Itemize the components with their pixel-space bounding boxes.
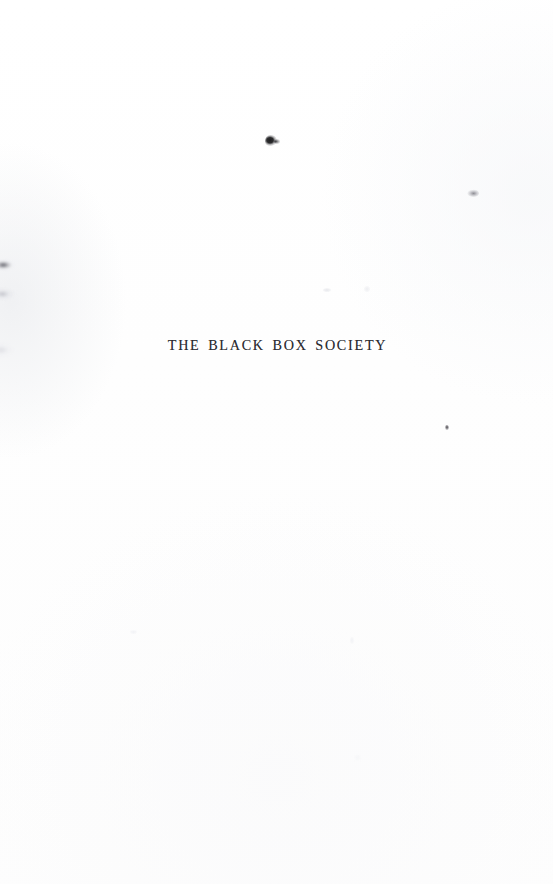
ink-speck-upper-center-icon — [265, 135, 277, 146]
half-title-block: THE BLACK BOX SOCIETY — [0, 336, 553, 354]
tiny-speck-mid-right-icon — [445, 425, 449, 430]
scanned-page: THE BLACK BOX SOCIETY — [0, 0, 553, 884]
ink-speck-upper-center-tail-icon — [274, 139, 280, 144]
page-background-tone — [0, 0, 553, 884]
dust-mote-icon — [350, 637, 354, 644]
dust-mote-icon — [364, 286, 370, 292]
dust-mote-icon — [323, 288, 331, 292]
edge-smudge-mid-left-icon — [0, 286, 22, 302]
page-title: THE BLACK BOX SOCIETY — [168, 337, 387, 353]
edge-smudge-upper-left-icon — [0, 258, 22, 272]
dust-mote-icon — [355, 755, 360, 760]
dust-mote-icon — [130, 630, 137, 634]
gray-speck-upper-right-icon — [467, 189, 479, 197]
